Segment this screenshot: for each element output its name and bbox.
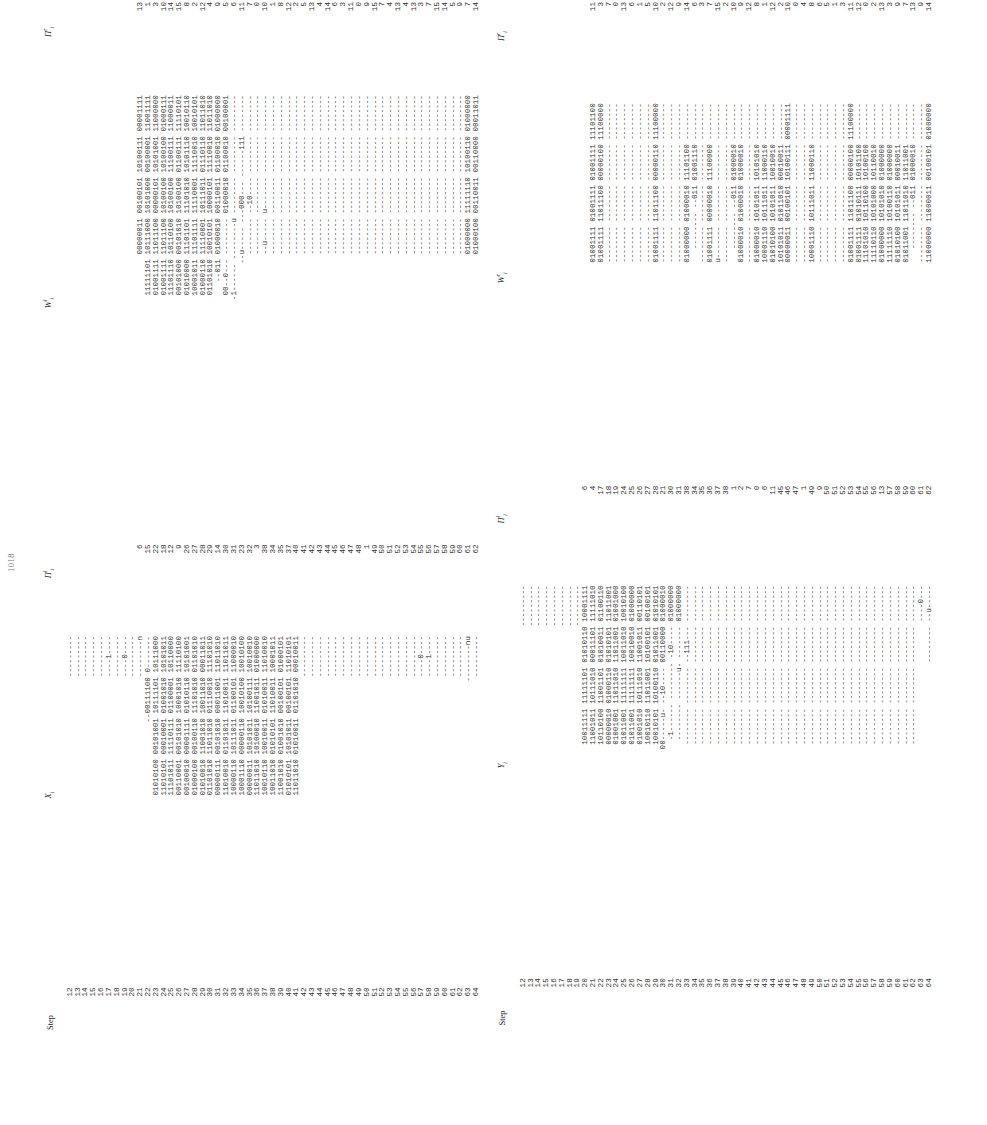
row-pi-left <box>106 542 114 634</box>
table-row: 13--------- <box>528 0 536 1089</box>
row-y: --------- <box>535 583 543 976</box>
row-y: --------- <box>543 583 551 976</box>
row-pi-right: 7 <box>379 0 387 93</box>
row-pi-right: 1 <box>637 0 645 101</box>
row-w <box>559 101 567 483</box>
row-w <box>122 93 130 542</box>
row-x: --------- <box>129 634 137 985</box>
row-x: --------- <box>411 634 419 985</box>
row-pi-right: 0 <box>613 0 621 101</box>
row-step: 28 <box>645 976 653 1089</box>
row-pi-left: 0 <box>754 484 762 584</box>
row-pi-right: 4 <box>403 0 411 93</box>
row-step: 35 <box>699 976 707 1089</box>
row-pi-left: 1 <box>364 542 372 634</box>
row-pi-right <box>574 0 582 101</box>
row-step: 38 <box>270 985 278 1089</box>
header-pi-right: Πri <box>487 0 520 101</box>
row-x: --------- <box>340 634 348 985</box>
paper-sheet: 1018 Step Xi Πli <box>0 0 987 1125</box>
row-pi-right: 0 <box>793 0 801 101</box>
row-step: 47 <box>340 985 348 1089</box>
row-pi-right <box>75 0 83 93</box>
row-step: 27 <box>637 976 645 1089</box>
row-pi-left: 60 <box>457 542 465 634</box>
row-pi-right: 15 <box>715 0 723 101</box>
step-x-table: Step Xi Πli Wli Πri <box>34 0 481 1089</box>
row-step: 29 <box>653 976 661 1089</box>
row-pi-left: 29 <box>207 542 215 634</box>
row-pi-left: 53 <box>848 484 856 584</box>
row-step: 37 <box>262 985 270 1089</box>
table-row: 12--------- <box>520 0 528 1089</box>
row-pi-left <box>114 542 122 634</box>
row-pi-right: 1 <box>832 0 840 101</box>
table-row: 16--------- <box>98 0 106 1089</box>
row-step: 35 <box>247 985 255 1089</box>
row-step: 49 <box>809 976 817 1089</box>
row-pi-left: 9 <box>817 484 825 584</box>
row-pi-left: 22 <box>153 542 161 634</box>
row-pi-right: 11 <box>848 0 856 101</box>
row-pi-left: 59 <box>450 542 458 634</box>
row-w <box>114 93 122 542</box>
row-step: 61 <box>903 976 911 1089</box>
row-pi-left: 18 <box>606 484 614 584</box>
row-pi-right: 2 <box>871 0 879 101</box>
row-pi-left: 54 <box>411 542 419 634</box>
row-w <box>75 93 83 542</box>
row-step: 19 <box>122 985 130 1089</box>
row-pi-left <box>67 542 75 634</box>
row-pi-right: 14 <box>473 0 481 93</box>
row-step: 48 <box>348 985 356 1089</box>
header-x-value: Xi <box>34 634 67 985</box>
row-step: 56 <box>411 985 419 1089</box>
row-pi-right: 2 <box>778 0 786 101</box>
row-step: 62 <box>457 985 465 1089</box>
row-step: 63 <box>918 976 926 1089</box>
row-x: ----0---- <box>122 634 130 985</box>
row-pi-left <box>559 484 567 584</box>
row-pi-right: 0 <box>356 0 364 93</box>
row-pi-right: 10 <box>785 0 793 101</box>
row-step: 15 <box>543 976 551 1089</box>
row-pi-left <box>551 484 559 584</box>
row-pi-left: 30 <box>668 484 676 584</box>
row-step: 41 <box>293 985 301 1089</box>
header-pi-left: Πli <box>34 542 67 634</box>
row-x: ----0---- <box>418 634 426 985</box>
row-step: 26 <box>629 976 637 1089</box>
row-x: --------- <box>332 634 340 985</box>
row-pi-left: 1 <box>731 484 739 584</box>
row-pi-left <box>129 542 137 634</box>
row-y: -------- -------- -------- -------- <box>910 583 918 976</box>
row-step: 52 <box>379 985 387 1089</box>
row-x: --------- <box>309 634 317 985</box>
row-x: --------- <box>356 634 364 985</box>
row-step: 55 <box>856 976 864 1089</box>
row-pi-right: 3 <box>418 0 426 93</box>
row-pi-left: 28 <box>200 542 208 634</box>
row-pi-left: 18 <box>161 542 169 634</box>
row-w <box>106 93 114 542</box>
row-x: --------- <box>114 634 122 985</box>
row-pi-right <box>114 0 122 93</box>
row-step: 33 <box>684 976 692 1089</box>
row-pi-left: 36 <box>707 484 715 584</box>
row-step: 38 <box>723 976 731 1089</box>
row-step: 25 <box>621 976 629 1089</box>
row-pi-left: 35 <box>278 542 286 634</box>
row-pi-right: 1 <box>270 0 278 93</box>
row-y: --------- <box>520 583 528 976</box>
row-pi-right: 10 <box>653 0 661 101</box>
row-step: 45 <box>778 976 786 1089</box>
row-pi-left: 40 <box>293 542 301 634</box>
row-pi-right: 9 <box>215 0 223 93</box>
row-pi-right: 3 <box>887 0 895 101</box>
row-x: ----1---- <box>106 634 114 985</box>
row-pi-right: 13 <box>411 0 419 93</box>
row-step: 19 <box>574 976 582 1089</box>
row-pi-right: 8 <box>184 0 192 93</box>
row-pi-left: 58 <box>442 542 450 634</box>
row-w <box>535 101 543 483</box>
